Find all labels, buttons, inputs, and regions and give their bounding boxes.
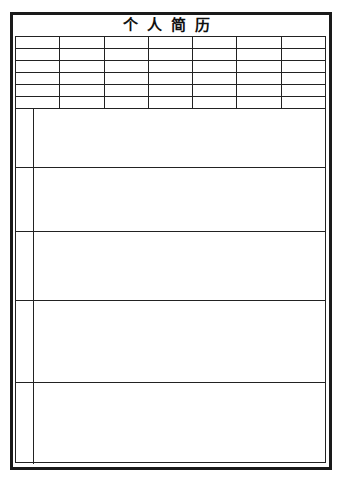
grid-row bbox=[16, 49, 326, 61]
resume-page: 个人简历 bbox=[10, 12, 332, 470]
section-content[interactable] bbox=[34, 301, 325, 383]
grid-cell[interactable] bbox=[237, 37, 281, 49]
grid-cell[interactable] bbox=[193, 37, 237, 49]
grid-cell[interactable] bbox=[104, 49, 148, 61]
section-content[interactable] bbox=[34, 109, 325, 168]
grid-row bbox=[16, 73, 326, 85]
info-grid bbox=[15, 36, 326, 109]
grid-row bbox=[16, 37, 326, 49]
grid-row bbox=[16, 97, 326, 109]
grid-cell[interactable] bbox=[104, 85, 148, 97]
grid-cell[interactable] bbox=[237, 49, 281, 61]
grid-cell[interactable] bbox=[60, 61, 104, 73]
grid-cell[interactable] bbox=[148, 37, 192, 49]
grid-cell[interactable] bbox=[193, 61, 237, 73]
grid-cell[interactable] bbox=[237, 85, 281, 97]
grid-cell[interactable] bbox=[16, 37, 60, 49]
section-content[interactable] bbox=[34, 383, 325, 464]
grid-cell[interactable] bbox=[281, 61, 325, 73]
grid-cell[interactable] bbox=[60, 49, 104, 61]
grid-cell[interactable] bbox=[193, 73, 237, 85]
grid-cell[interactable] bbox=[60, 37, 104, 49]
resume-section-1 bbox=[16, 108, 325, 168]
grid-cell[interactable] bbox=[193, 49, 237, 61]
grid-cell[interactable] bbox=[104, 37, 148, 49]
grid-cell[interactable] bbox=[60, 97, 104, 109]
grid-row bbox=[16, 61, 326, 73]
grid-cell[interactable] bbox=[104, 97, 148, 109]
grid-cell[interactable] bbox=[237, 73, 281, 85]
resume-section-2 bbox=[16, 167, 325, 232]
grid-cell[interactable] bbox=[281, 49, 325, 61]
section-label bbox=[16, 301, 34, 383]
grid-cell[interactable] bbox=[281, 37, 325, 49]
grid-cell[interactable] bbox=[237, 61, 281, 73]
grid-cell[interactable] bbox=[193, 97, 237, 109]
page-title: 个人简历 bbox=[13, 15, 329, 37]
grid-row bbox=[16, 85, 326, 97]
grid-cell[interactable] bbox=[16, 73, 60, 85]
grid-cell[interactable] bbox=[193, 85, 237, 97]
grid-cell[interactable] bbox=[16, 85, 60, 97]
grid-cell[interactable] bbox=[16, 49, 60, 61]
grid-cell[interactable] bbox=[60, 73, 104, 85]
grid-cell[interactable] bbox=[281, 73, 325, 85]
resume-body bbox=[15, 108, 326, 463]
grid-cell[interactable] bbox=[237, 97, 281, 109]
grid-cell[interactable] bbox=[148, 97, 192, 109]
grid-cell[interactable] bbox=[148, 49, 192, 61]
grid-cell[interactable] bbox=[148, 61, 192, 73]
section-content[interactable] bbox=[34, 168, 325, 232]
section-label bbox=[16, 168, 34, 232]
grid-cell[interactable] bbox=[281, 97, 325, 109]
grid-cell[interactable] bbox=[60, 85, 104, 97]
resume-section-3 bbox=[16, 231, 325, 301]
grid-cell[interactable] bbox=[104, 61, 148, 73]
section-label bbox=[16, 232, 34, 301]
grid-cell[interactable] bbox=[16, 97, 60, 109]
grid-cell[interactable] bbox=[148, 85, 192, 97]
section-label bbox=[16, 383, 34, 464]
grid-cell[interactable] bbox=[16, 61, 60, 73]
grid-cell[interactable] bbox=[104, 73, 148, 85]
grid-cell[interactable] bbox=[148, 73, 192, 85]
section-label bbox=[16, 109, 34, 168]
grid-cell[interactable] bbox=[281, 85, 325, 97]
section-content[interactable] bbox=[34, 232, 325, 301]
resume-section-5 bbox=[16, 382, 325, 464]
resume-section-4 bbox=[16, 300, 325, 383]
